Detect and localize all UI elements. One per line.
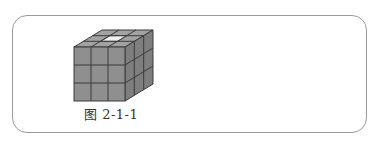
figure-caption: 图 2-1-1 (84, 104, 164, 123)
cube-3x3x3 (74, 30, 153, 101)
cube-diagram (0, 0, 379, 141)
cube-front-face (74, 47, 125, 101)
